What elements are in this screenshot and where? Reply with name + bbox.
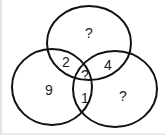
- region-right-only: ?: [119, 89, 127, 103]
- region-left-only: 9: [45, 83, 53, 97]
- circle-right: [73, 51, 157, 127]
- region-top-only: ?: [85, 26, 93, 40]
- region-top-left: 2: [62, 55, 70, 69]
- region-top-right: 4: [104, 58, 112, 72]
- region-left-right: 1: [81, 91, 89, 105]
- region-center: ?: [81, 68, 89, 82]
